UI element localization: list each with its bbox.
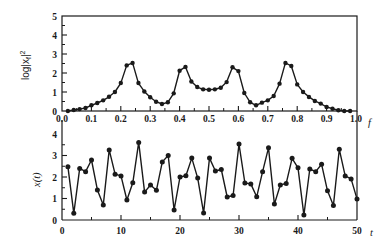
x-tick-label: 0	[60, 226, 65, 236]
data-point-marker	[160, 159, 165, 164]
x-tick-label: 0.3	[144, 114, 156, 124]
x-tick-label: 0.7	[262, 114, 274, 124]
data-point-marker	[355, 196, 360, 201]
data-point-marker	[307, 95, 311, 99]
data-point-marker	[101, 98, 105, 102]
data-point-marker	[342, 109, 346, 113]
x-tick-label: 10	[116, 226, 126, 236]
data-point-marker	[154, 188, 159, 193]
x-tick-label: 40	[293, 226, 303, 236]
data-point-marker	[142, 190, 147, 195]
spectrum-series	[66, 61, 353, 113]
data-point-marker	[242, 91, 246, 95]
data-point-marker	[154, 99, 158, 103]
y-tick-label: 1	[52, 88, 57, 98]
data-point-marker	[77, 107, 81, 111]
data-point-marker	[225, 194, 230, 199]
y-tick-label: 5	[52, 12, 57, 22]
bottom-y-axis-ticks: 01234	[52, 130, 67, 226]
data-point-marker	[260, 169, 265, 174]
data-point-marker	[148, 182, 153, 187]
data-point-marker	[336, 108, 340, 112]
x-tick-label: 50	[352, 226, 362, 236]
data-point-marker	[207, 156, 212, 161]
data-point-marker	[95, 187, 100, 192]
data-point-marker	[343, 173, 348, 178]
data-point-marker	[266, 98, 270, 102]
data-point-marker	[107, 95, 111, 99]
data-point-marker	[325, 188, 330, 193]
data-point-marker	[72, 108, 76, 112]
top-y-axis-label-sup: 2	[19, 50, 26, 54]
y-tick-label: 3	[52, 151, 57, 161]
data-point-marker	[207, 88, 211, 92]
data-point-marker	[89, 158, 94, 163]
data-point-marker	[313, 99, 317, 103]
data-point-marker	[319, 101, 323, 105]
x-tick-label: 0.2	[115, 114, 127, 124]
data-point-marker	[136, 81, 140, 85]
data-point-marker	[166, 153, 171, 158]
data-point-marker	[148, 95, 152, 99]
data-point-marker	[119, 81, 123, 85]
data-point-marker	[289, 64, 293, 68]
data-point-marker	[183, 65, 187, 69]
data-point-marker	[113, 172, 118, 177]
time-series	[65, 140, 359, 218]
x-tick-label: 0.9	[321, 114, 333, 124]
data-point-marker	[166, 100, 170, 104]
spectrum-panel: 012345 0.00.10.20.30.40.50.60.70.80.91.0…	[19, 12, 373, 129]
data-point-marker	[290, 156, 295, 161]
figure: 012345 0.00.10.20.30.40.50.60.70.80.91.0…	[0, 0, 391, 251]
data-point-marker	[230, 65, 234, 69]
data-point-marker	[330, 107, 334, 111]
data-point-marker	[201, 210, 206, 215]
data-point-marker	[95, 101, 99, 105]
y-tick-label: 3	[52, 50, 57, 60]
y-tick-label: 2	[52, 173, 57, 183]
data-point-marker	[301, 90, 305, 94]
data-point-marker	[172, 207, 177, 212]
data-point-marker	[319, 162, 324, 167]
bottom-y-axis-label: x(t)	[31, 172, 43, 188]
data-point-marker	[266, 145, 271, 150]
data-point-marker	[337, 147, 342, 152]
data-point-marker	[101, 202, 106, 207]
data-point-marker	[301, 213, 306, 218]
series-line	[68, 142, 357, 215]
data-point-marker	[65, 164, 70, 169]
series-line	[68, 63, 350, 111]
bottom-x-axis-label: t	[370, 227, 374, 238]
data-point-marker	[66, 109, 70, 113]
data-point-marker	[71, 211, 76, 216]
data-point-marker	[178, 175, 183, 180]
x-tick-label: 30	[234, 226, 244, 236]
data-point-marker	[254, 194, 259, 199]
data-point-marker	[349, 176, 354, 181]
data-point-marker	[242, 181, 247, 186]
data-point-marker	[124, 198, 129, 203]
y-tick-label: 0	[52, 216, 57, 226]
data-point-marker	[142, 89, 146, 93]
data-point-marker	[83, 169, 88, 174]
data-point-marker	[313, 169, 318, 174]
data-point-marker	[277, 81, 281, 85]
x-tick-label: 0.6	[232, 114, 244, 124]
y-tick-label: 4	[52, 130, 57, 140]
data-point-marker	[296, 165, 301, 170]
x-tick-label: 1.0	[350, 114, 362, 124]
bottom-x-axis-ticks: 01020304050	[60, 215, 362, 236]
data-point-marker	[136, 140, 141, 145]
data-point-marker	[295, 82, 299, 86]
data-point-marker	[219, 167, 224, 172]
data-point-marker	[195, 85, 199, 89]
data-point-marker	[172, 91, 176, 95]
data-point-marker	[348, 109, 352, 113]
y-tick-label: 4	[52, 31, 57, 41]
data-point-marker	[124, 63, 128, 67]
data-point-marker	[284, 181, 289, 186]
data-point-marker	[331, 203, 336, 208]
data-point-marker	[130, 180, 135, 185]
top-y-axis-label-main: log|x	[20, 59, 31, 80]
data-point-marker	[183, 173, 188, 178]
